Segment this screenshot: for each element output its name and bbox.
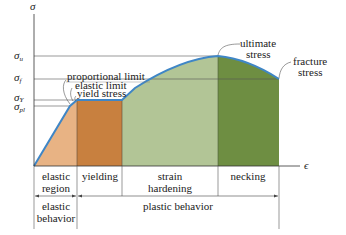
region-strain-line1: strain xyxy=(158,170,183,182)
stress-strain-diagram: σ ϵ σu σf σY σpl proportional limit elas… xyxy=(0,0,346,235)
behavior-plastic: plastic behavior xyxy=(143,200,213,212)
ultimate-stress-label-line2: stress xyxy=(246,48,270,60)
region-yielding: yielding xyxy=(82,170,119,182)
svg-text:σu: σu xyxy=(14,49,23,63)
region-strain-line2: hardening xyxy=(148,182,192,194)
x-axis-label: ϵ xyxy=(304,159,309,171)
yielding-region-fill xyxy=(77,100,122,166)
svg-text:σf: σf xyxy=(14,71,22,85)
yield-stress-label: yield stress xyxy=(77,87,126,99)
y-tick-fracture: σf xyxy=(14,71,22,85)
y-tick-ultimate: σu xyxy=(14,49,23,63)
region-elastic-line2: region xyxy=(42,182,71,194)
fracture-stress-label-line2: stress xyxy=(298,66,322,78)
behavior-elastic-line1: elastic xyxy=(42,200,70,212)
behavior-elastic-line2: behavior xyxy=(37,212,76,224)
region-elastic-line1: elastic xyxy=(42,170,70,182)
y-axis-label: σ xyxy=(30,0,36,12)
region-necking: necking xyxy=(231,170,266,182)
